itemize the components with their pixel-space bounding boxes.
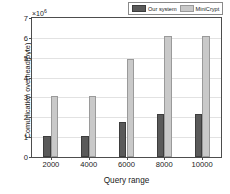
grid-line (32, 38, 221, 39)
y-axis-tick-label: 1 (24, 133, 28, 142)
legend-label-our-system: Our system (148, 6, 177, 12)
x-axis-tick-label: 8000 (156, 160, 173, 169)
y-axis-tick (29, 137, 32, 138)
y-axis-tick-label: 3 (24, 93, 28, 102)
x-axis-tick-label: 2000 (42, 160, 59, 169)
bar-minicrypt-2000 (51, 96, 59, 157)
y-axis-tick-label: 7 (24, 14, 28, 23)
y-axis-tick-label: 0 (24, 153, 28, 162)
bar-our-system-4000 (81, 136, 89, 157)
y-axis-tick-label: 6 (24, 33, 28, 42)
bar-minicrypt-10000 (202, 36, 210, 157)
y-axis-tick-label: 2 (24, 113, 28, 122)
bar-minicrypt-6000 (127, 59, 135, 157)
plot-inner: 01234567200040006000800010000 (32, 18, 221, 157)
y-axis-tick-label: 4 (24, 73, 28, 82)
y-axis-tick-label: 5 (24, 53, 28, 62)
plot-area: 01234567200040006000800010000 (31, 17, 222, 158)
chart-legend: Our system MiniCrypt (128, 2, 223, 15)
y-axis-multiplier: ×106 (32, 8, 47, 17)
bar-minicrypt-8000 (164, 36, 172, 157)
bar-our-system-2000 (43, 136, 51, 157)
legend-swatch-minicrypt (180, 5, 194, 12)
y-axis-tick (29, 97, 32, 98)
legend-entry-minicrypt[interactable]: MiniCrypt (180, 5, 220, 12)
bar-our-system-8000 (157, 114, 165, 157)
bar-our-system-6000 (119, 122, 127, 157)
y-axis-tick (29, 117, 32, 118)
x-axis-tick-label: 10000 (192, 160, 213, 169)
y-axis-multiplier-exponent: 6 (44, 8, 47, 14)
y-axis-tick (29, 38, 32, 39)
x-axis-tick-label: 4000 (80, 160, 97, 169)
bar-minicrypt-4000 (89, 96, 97, 157)
y-axis-tick (29, 58, 32, 59)
legend-entry-our-system[interactable]: Our system (132, 5, 177, 12)
y-axis-tick (29, 18, 32, 19)
x-axis-tick-label: 6000 (118, 160, 135, 169)
chart-figure: Comunication overhead(byte) ×106 0123456… (0, 0, 230, 194)
y-axis-tick (29, 157, 32, 158)
legend-swatch-our-system (132, 5, 146, 12)
y-axis-tick (29, 78, 32, 79)
bar-our-system-10000 (195, 114, 203, 157)
x-axis-label: Query range (31, 176, 222, 185)
legend-label-minicrypt: MiniCrypt (196, 6, 220, 12)
